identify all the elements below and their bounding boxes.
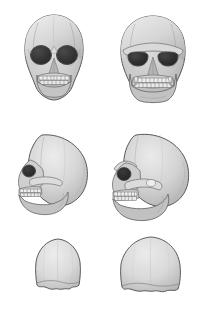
lower-teeth: [40, 81, 68, 85]
dental-arcade: [113, 190, 139, 201]
lower-teeth: [21, 193, 41, 197]
figure-specimen-a-posterior: [30, 236, 86, 298]
upper-teeth: [114, 192, 137, 196]
occipital-outline: [36, 239, 81, 289]
lower-teeth: [135, 83, 171, 88]
figure-specimen-a-anterior: [16, 12, 92, 116]
figure-specimen-b-anterior: [112, 12, 194, 118]
orbit: [23, 165, 36, 177]
orbit-right: [57, 46, 78, 65]
dental-arcade: [37, 73, 71, 85]
lower-teeth: [115, 197, 137, 201]
figure-specimen-a-lateral: [13, 130, 95, 225]
orbit-left: [31, 46, 52, 65]
figure-specimen-b-lateral: [108, 128, 196, 228]
occipital-outline: [121, 237, 181, 292]
upper-teeth: [134, 78, 172, 83]
orbit: [117, 168, 131, 181]
orbit-right: [158, 52, 178, 66]
orbit-left: [128, 52, 148, 66]
dental-arcade: [132, 75, 174, 88]
upper-teeth: [39, 76, 69, 80]
figure-specimen-b-posterior: [117, 234, 185, 302]
upper-teeth: [20, 189, 41, 193]
dental-arcade: [19, 187, 42, 197]
skull-plate: Specimen A — anterior (frontal) view Spe…: [0, 0, 205, 309]
